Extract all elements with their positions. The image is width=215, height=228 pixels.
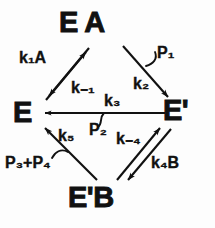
- product-label-p1: P₁: [157, 45, 174, 61]
- node-e-prime-b: E'B: [68, 183, 114, 212]
- reaction-scheme-diagram: E A E E' E'B k₁A k₋₁ k₃ k₂ k₅ k₋₄ k₄B P₁…: [0, 0, 215, 228]
- rate-label-k2: k₂: [133, 76, 149, 92]
- product-label-p3-p4: P₃+P₄: [5, 155, 51, 171]
- release-hook-p3-p4: [52, 150, 68, 158]
- node-e: E: [13, 98, 32, 127]
- rate-label-k-minus-4: k₋₄: [116, 131, 141, 147]
- rate-label-k3: k₃: [104, 93, 120, 109]
- rate-label-k5: k₅: [58, 128, 74, 144]
- node-e-prime: E': [163, 96, 188, 125]
- node-ea: E A: [59, 8, 105, 37]
- rate-label-k-minus-1: k₋₁: [71, 80, 95, 96]
- rate-label-k4b: k₄B: [151, 155, 179, 171]
- release-hook-p1: [146, 52, 156, 66]
- product-label-p2: P₂: [89, 122, 107, 138]
- rate-label-k1a: k₁A: [19, 50, 46, 66]
